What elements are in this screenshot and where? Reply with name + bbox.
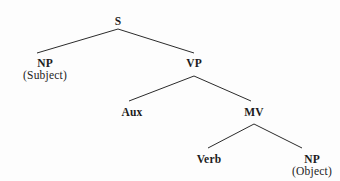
node-s-category: S xyxy=(110,15,126,27)
node-verb-category: Verb xyxy=(193,153,225,165)
node-np-subject: NP (Subject) xyxy=(12,57,78,81)
node-s: S xyxy=(110,15,126,27)
node-np-subject-role: (Subject) xyxy=(12,69,78,81)
node-mv: MV xyxy=(242,106,266,118)
edge-mv-to-verb xyxy=(208,124,254,148)
node-np-object: NP (Object) xyxy=(286,153,338,177)
edge-mv-to-np-object xyxy=(254,124,302,148)
node-mv-category: MV xyxy=(242,106,266,118)
node-aux-category: Aux xyxy=(117,106,147,118)
edge-vp-to-aux xyxy=(129,76,194,101)
node-vp: VP xyxy=(181,57,207,69)
node-np-subject-category: NP xyxy=(12,57,78,69)
node-aux: Aux xyxy=(117,106,147,118)
edge-vp-to-mv xyxy=(194,76,251,101)
node-verb: Verb xyxy=(193,153,225,165)
edge-s-to-np-subject xyxy=(37,29,118,53)
syntax-tree-diagram: S NP (Subject) VP Aux MV Verb NP (Object… xyxy=(0,0,340,181)
node-np-object-category: NP xyxy=(286,153,338,165)
node-np-object-role: (Object) xyxy=(286,165,338,177)
node-vp-category: VP xyxy=(181,57,207,69)
edge-s-to-vp xyxy=(118,29,194,53)
